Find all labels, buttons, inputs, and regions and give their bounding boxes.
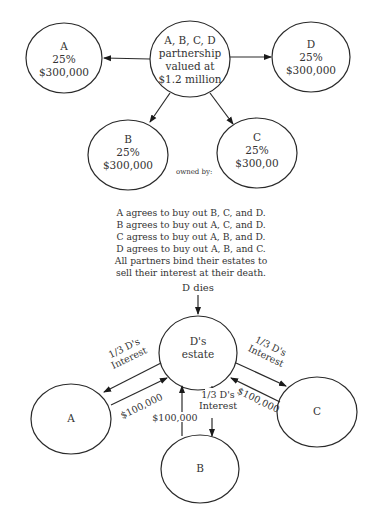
node-c: C xyxy=(277,377,357,447)
node-a: A xyxy=(31,384,111,454)
node-b-label: B xyxy=(196,462,204,474)
label-interest-to-c: 1/3 D's Interest xyxy=(247,333,291,370)
partner-b-name: B xyxy=(124,133,132,145)
partner-c-share: 25% xyxy=(245,144,268,156)
partner-node-d: D 25% $300,000 xyxy=(272,22,350,92)
top-diagram: A, B, C, D partnership valued at $1.2 mi… xyxy=(26,21,350,190)
partner-a-share: 25% xyxy=(52,53,75,65)
agreement-line-1: A agrees to buy out B, C, and D. xyxy=(115,207,265,218)
partnership-node: A, B, C, D partnership valued at $1.2 mi… xyxy=(150,21,230,97)
estate-node: D's estate xyxy=(159,316,237,390)
partner-c-value: $300,00 xyxy=(235,157,278,169)
partner-d-value: $300,000 xyxy=(286,64,336,76)
partner-node-c: C 25% $300,00 xyxy=(217,118,297,188)
node-b: B xyxy=(161,435,239,503)
partner-d-share: 25% xyxy=(299,51,322,63)
partner-node-a: A 25% $300,000 xyxy=(26,23,102,93)
partner-d-name: D xyxy=(307,38,315,50)
estate-line-2: estate xyxy=(182,348,215,360)
owned-by-label: owned by: xyxy=(176,168,212,176)
agreement-line-4: D agrees to buy out A, B, and C. xyxy=(116,243,266,254)
label-interest-to-a: 1/3 D's Interest xyxy=(105,334,149,371)
agreement-text: A agrees to buy out B, C, and D. B agree… xyxy=(114,207,268,278)
partner-c-name: C xyxy=(253,131,261,143)
partner-b-value: $300,000 xyxy=(103,159,153,171)
d-dies-label: D dies xyxy=(182,282,214,293)
agreement-line-3: C agress to buy out A, B, and D. xyxy=(117,231,266,242)
label-interest-to-b-line-1: 1/3 D's xyxy=(201,389,235,400)
partnership-line-2: partnership xyxy=(159,47,222,59)
partnership-line-3: valued at xyxy=(164,60,215,72)
estate-line-1: D's xyxy=(190,335,207,347)
buy-sell-agreement-diagram: A, B, C, D partnership valued at $1.2 mi… xyxy=(0,0,380,525)
label-interest-to-b-line-2: Interest xyxy=(199,400,237,411)
partner-a-value: $300,000 xyxy=(39,66,89,78)
partnership-line-4: $1.2 million xyxy=(158,73,221,85)
agreement-line-5: All partners bind their estates to xyxy=(114,255,268,266)
partnership-line-1: A, B, C, D xyxy=(163,34,215,46)
edge-partnership-to-b xyxy=(150,93,170,122)
node-c-label: C xyxy=(313,405,321,417)
label-payment-from-b: $100,000 xyxy=(152,412,197,423)
agreement-line-2: B agrees to buy out A, C, and D. xyxy=(116,219,265,230)
edge-partnership-to-c xyxy=(210,93,233,124)
partner-b-share: 25% xyxy=(116,146,139,158)
partner-a-name: A xyxy=(59,40,68,52)
partner-node-b: B 25% $300,000 xyxy=(88,120,168,190)
bottom-diagram: D dies D's estate A C B 1/3 D's Interest xyxy=(31,282,357,503)
node-a-label: A xyxy=(66,412,75,424)
edge-partnership-to-a xyxy=(104,58,150,59)
agreement-line-6: sell their interest at their death. xyxy=(116,267,266,278)
